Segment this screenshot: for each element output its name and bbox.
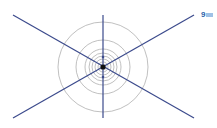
axis-marker [102,56,105,59]
page-badge: 9 [201,11,213,19]
radial-diagram [0,0,217,128]
axis-marker [102,76,105,79]
center-point [101,65,106,70]
badge-bar-icon [206,13,213,17]
badge-number: 9 [201,11,205,19]
